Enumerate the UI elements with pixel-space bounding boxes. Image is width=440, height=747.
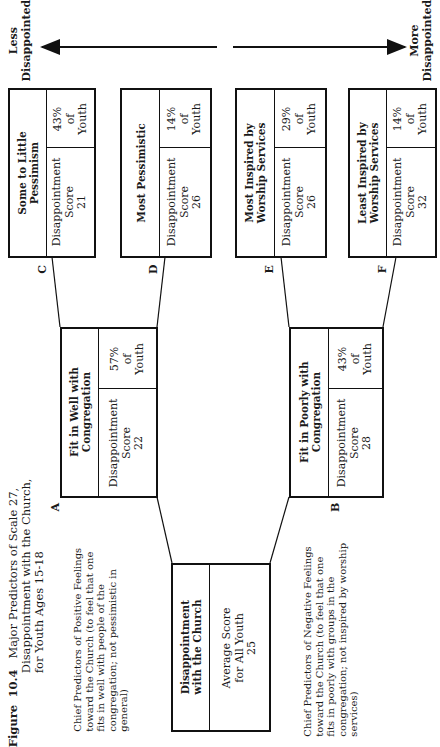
- negative-predictors-note: Chief Predictors of Negative Feelings to…: [296, 540, 366, 740]
- node-c-letter: C: [36, 262, 50, 276]
- note-line: Chief Predictors of Positive Feelings: [72, 548, 84, 732]
- node-score-label: Disappointment: [392, 158, 405, 247]
- note-line: Chief Predictors of Negative Feelings: [302, 543, 314, 737]
- node-pct: Youth: [417, 103, 430, 135]
- figure-title: Disappointment with the Church,: [19, 479, 32, 747]
- figure-title: for Youth Ages 15-18: [33, 479, 46, 747]
- root-title: with the Church: [191, 600, 203, 695]
- node-e-letter: E: [263, 262, 277, 276]
- more-disappointed-label: MoreDisappointed: [404, 0, 440, 82]
- less-label-line: Disappointed: [21, 0, 34, 82]
- node-score-label: Disappointment: [281, 158, 294, 247]
- note-line: congregation; not pessimistic in: [107, 548, 119, 732]
- node-title: Least Inspired by: [356, 122, 368, 224]
- node-pct: Youth: [362, 343, 375, 375]
- node-score: 21: [77, 158, 90, 247]
- figure-title: Major Predictors of Scale 27,: [5, 488, 19, 659]
- node-f-box: Least Inspired byWorship Services 14%ofY…: [348, 88, 437, 258]
- note-line: services): [348, 543, 360, 737]
- node-pct: of: [349, 343, 362, 375]
- note-line: congregation; not inspired by worship: [337, 543, 349, 737]
- root-box: Disappointmentwith the Church Average Sc…: [171, 563, 271, 732]
- node-pct: 29%: [281, 103, 294, 135]
- node-pct: 14%: [392, 103, 405, 135]
- root-score: 25: [246, 607, 259, 688]
- node-a-box: Fit in Well withCongregation 57%ofYouth …: [60, 327, 158, 498]
- node-title: Fit in Poorly with: [297, 362, 309, 464]
- node-title: Worship Services: [368, 122, 380, 224]
- node-a-letter: A: [49, 500, 63, 514]
- node-d-letter: D: [148, 262, 162, 276]
- root-title: Disappointment: [179, 600, 191, 695]
- node-title: Most Inspired by: [243, 123, 255, 224]
- node-title: Congregation: [80, 368, 92, 458]
- node-title: Pessimism: [28, 131, 40, 214]
- node-pct: of: [121, 343, 134, 375]
- node-title: Fit in Well with: [68, 368, 80, 458]
- node-pct: Youth: [134, 343, 147, 375]
- note-line: general): [118, 548, 130, 732]
- node-score-label: Disappointment: [109, 398, 122, 487]
- node-b-box: Fit in Poorly withCongregation 43%ofYout…: [289, 327, 384, 498]
- node-score-label: Score: [294, 158, 307, 247]
- more-label-line: More: [409, 0, 422, 82]
- note-line: fits in well with people of the: [95, 548, 107, 732]
- node-pct: Youth: [77, 103, 90, 135]
- node-title: Some to Little: [16, 131, 28, 214]
- node-b-letter: B: [330, 500, 344, 514]
- node-score-label: Score: [405, 158, 418, 247]
- node-pct: 14%: [166, 103, 179, 135]
- node-pct: 43%: [337, 343, 350, 375]
- node-pct: 43%: [52, 103, 65, 135]
- node-title: Congregation: [310, 362, 322, 464]
- node-c-box: Some to LittlePessimism 43%ofYouth Disap…: [8, 88, 96, 258]
- node-score: 28: [362, 398, 375, 487]
- node-score: 22: [134, 398, 147, 487]
- node-score-label: Disappointment: [337, 398, 350, 487]
- node-e-box: Most Inspired byWorship Services 29%ofYo…: [235, 88, 327, 258]
- node-pct: 57%: [109, 343, 122, 375]
- note-line: toward the Church (to feel that one: [84, 548, 96, 732]
- node-score-label: Score: [179, 158, 192, 247]
- note-line: fits in poorly with groups in the: [325, 543, 337, 737]
- more-label-line: Disappointed: [422, 0, 435, 82]
- node-pct: of: [64, 103, 77, 135]
- figure-caption: Figure 10.4 Major Predictors of Scale 27…: [2, 488, 50, 738]
- figure-number: 10.4: [5, 670, 19, 698]
- less-disappointed-label: LessDisappointed: [0, 0, 42, 82]
- node-pct: Youth: [306, 103, 319, 135]
- node-score: 32: [417, 158, 430, 247]
- root-body: Average Score: [221, 607, 234, 688]
- node-score: 26: [191, 158, 204, 247]
- node-score-label: Disappointment: [166, 158, 179, 247]
- note-line: toward the Church (to feel that one: [314, 543, 326, 737]
- node-title: Most Pessimistic: [134, 123, 146, 222]
- node-score-label: Disappointment: [52, 158, 65, 247]
- node-f-letter: F: [376, 262, 390, 276]
- node-d-box: Most Pessimistic 14%ofYouth Disappointme…: [120, 88, 212, 258]
- positive-predictors-note: Chief Predictors of Positive Feelings to…: [68, 545, 134, 735]
- node-title: Worship Services: [256, 123, 268, 224]
- node-score: 26: [306, 158, 319, 247]
- less-label-line: Less: [8, 0, 21, 82]
- figure-label: Figure: [5, 705, 19, 747]
- node-pct: Youth: [191, 103, 204, 135]
